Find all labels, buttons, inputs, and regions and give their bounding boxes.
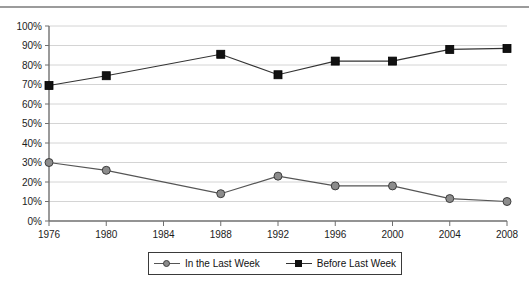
y-axis-tick-label: 10% [22,196,42,207]
chart-plot-area: 0%10%20%30%40%50%60%70%80%90%100%1976198… [0,0,529,285]
data-point-circle [217,190,225,198]
data-point-circle [503,198,511,206]
square-marker-icon [286,259,312,268]
data-point-circle [446,195,454,203]
y-axis-tick-label: 40% [22,138,42,149]
y-axis-tick-label: 60% [22,99,42,110]
data-point-square [389,57,397,65]
y-axis-tick-label: 70% [22,79,42,90]
legend-item-before-last-week: Before Last Week [286,258,396,269]
data-point-square [217,50,225,58]
y-axis-tick-label: 30% [22,157,42,168]
data-point-square [331,57,339,65]
x-axis-tick-label: 1980 [95,229,118,240]
x-axis-tick-label: 1988 [210,229,233,240]
y-axis-tick-label: 20% [22,177,42,188]
data-point-circle [331,182,339,190]
legend-item-in-the-last-week: In the Last Week [154,258,260,269]
legend-label: Before Last Week [317,258,396,269]
x-axis-tick-label: 1992 [267,229,290,240]
x-axis-tick-label: 2008 [496,229,519,240]
y-axis-tick-label: 80% [22,60,42,71]
legend-label: In the Last Week [185,258,260,269]
y-axis-tick-label: 90% [22,40,42,51]
data-point-square [102,72,110,80]
circle-marker-icon [154,259,180,268]
y-axis-tick-label: 100% [16,21,42,32]
x-axis-tick-label: 1996 [324,229,347,240]
data-point-circle [389,182,397,190]
y-axis-tick-label: 0% [28,216,43,227]
data-point-square [45,81,53,89]
data-point-circle [45,159,53,167]
line-chart: 0%10%20%30%40%50%60%70%80%90%100%1976198… [0,0,529,285]
data-point-square [274,71,282,79]
x-axis-tick-label: 1984 [152,229,175,240]
data-point-circle [102,166,110,174]
x-axis-tick-label: 2004 [439,229,462,240]
data-point-circle [274,172,282,180]
y-axis-tick-label: 50% [22,118,42,129]
x-axis-tick-label: 2000 [381,229,404,240]
series-line-square [49,48,507,85]
x-axis-tick-label: 1976 [38,229,61,240]
data-point-square [503,44,511,52]
data-point-square [446,45,454,53]
chart-legend: In the Last Week Before Last Week [148,252,402,275]
